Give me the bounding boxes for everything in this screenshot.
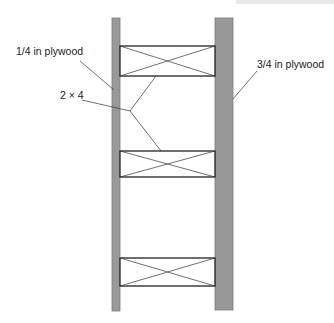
block-middle (120, 151, 215, 177)
leader-2x4-branch-middle (130, 111, 161, 151)
leader-2x4-branch-top (130, 76, 156, 111)
right-plywood-sheet (215, 18, 233, 310)
block-top (120, 46, 215, 76)
leader-right-plywood (233, 71, 257, 99)
leader-left-plywood (80, 61, 114, 90)
wall-section-diagram: 1/4 in plywood 2 × 4 3/4 in plywood (0, 0, 334, 323)
leader-2x4 (82, 100, 130, 111)
left-plywood-sheet (112, 18, 120, 311)
label-right-plywood: 3/4 in plywood (257, 58, 324, 70)
block-bottom (120, 258, 215, 286)
label-left-plywood: 1/4 in plywood (16, 45, 83, 57)
label-2x4: 2 × 4 (60, 89, 84, 101)
